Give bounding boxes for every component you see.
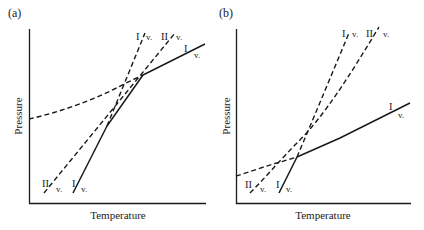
svg-text:I: I: [136, 31, 140, 42]
svg-text:v.: v.: [383, 29, 389, 39]
panel-b-label: (b): [219, 6, 233, 20]
svg-text:v.: v.: [176, 32, 182, 42]
panel-a-ylabel: Pressure: [12, 97, 24, 134]
panel-a-xlabel: Temperature: [90, 209, 146, 221]
svg-text:v.: v.: [260, 184, 266, 194]
panel-a: (a) Temperature Pressure I v. II v. I v.: [8, 6, 206, 221]
panel-b-curve-II-v-dashed: [250, 27, 379, 193]
svg-text:v.: v.: [81, 184, 87, 194]
svg-text:I: I: [389, 101, 393, 112]
svg-text:I: I: [184, 43, 188, 54]
panel-b-xlabel: Temperature: [295, 209, 351, 221]
panel-a-curve-I-v-steep-solid-2: [107, 75, 143, 126]
panel-b-ylabel: Pressure: [220, 97, 232, 134]
phase-diagram-figure: (a) Temperature Pressure I v. II v. I v.: [0, 0, 424, 230]
panel-a-curve-I-v-shallow-dashed: [29, 75, 143, 119]
panel-a-curve-II-v-dashed: [44, 33, 175, 193]
svg-text:II: II: [245, 179, 252, 190]
svg-text:I: I: [72, 178, 76, 189]
svg-text:I: I: [342, 28, 346, 39]
panel-a-label: (a): [8, 6, 21, 20]
svg-text:v.: v.: [56, 184, 62, 194]
svg-text:v.: v.: [352, 29, 358, 39]
svg-text:v.: v.: [146, 32, 152, 42]
panel-a-label-I-v-shallow: I v.: [184, 43, 200, 60]
panel-b-curve-I-v-shallow-solid: [297, 103, 410, 157]
panel-b-curve-I-v-dashed-upper: [297, 33, 349, 157]
svg-text:II: II: [42, 178, 49, 189]
panel-b-curve-I-v-shallow-dashed: [236, 157, 297, 176]
svg-text:II: II: [366, 28, 373, 39]
svg-text:v.: v.: [286, 184, 292, 194]
svg-text:II: II: [161, 31, 168, 42]
panel-b-label-I-v-top: I v.: [342, 28, 358, 39]
svg-text:I: I: [276, 179, 280, 190]
svg-text:v.: v.: [194, 50, 200, 60]
panel-b: (b) Temperature Pressure I v. II v. I v.: [219, 6, 411, 221]
svg-text:v.: v.: [398, 110, 404, 120]
